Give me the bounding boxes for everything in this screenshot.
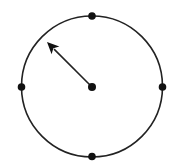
marker-dot-top — [88, 12, 96, 20]
arrow-shaft — [54, 49, 92, 87]
dial-diagram — [0, 0, 172, 168]
marker-dot-bottom — [88, 153, 96, 161]
marker-dot-left — [18, 83, 26, 91]
center-dot — [88, 83, 96, 91]
marker-dot-right — [159, 83, 167, 91]
dial-svg — [0, 0, 172, 168]
